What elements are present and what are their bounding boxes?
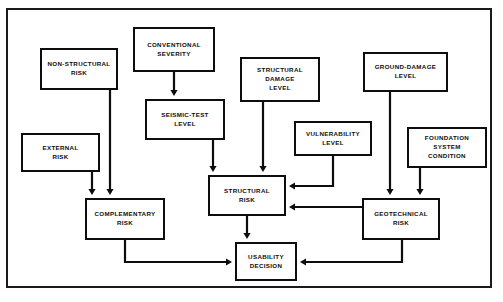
node-complementary-risk[interactable]: COMPLEMENTARY RISK bbox=[85, 198, 165, 240]
node-foundation-system-condition[interactable]: FOUNDATION SYSTEM CONDITION bbox=[407, 127, 487, 168]
node-label-conventional-severity: CONVENTIONAL SEVERITY bbox=[147, 41, 201, 59]
node-label-ground-damage-level: GROUND-DAMAGE LEVEL bbox=[375, 63, 437, 81]
node-label-usability-decision: USABILITY DECISION bbox=[248, 253, 284, 271]
node-label-non-structural-risk: NON-STRUCTURAL RISK bbox=[48, 60, 111, 78]
node-label-foundation-system-condition: FOUNDATION SYSTEM CONDITION bbox=[425, 134, 469, 161]
node-external-risk[interactable]: EXTERNAL RISK bbox=[21, 133, 100, 172]
node-usability-decision[interactable]: USABILITY DECISION bbox=[235, 242, 297, 281]
node-label-geotechnical-risk: GEOTECHNICAL RISK bbox=[374, 210, 428, 228]
node-label-vulnerability-level: VULNERABILITY LEVEL bbox=[306, 130, 360, 148]
diagram-root: NON-STRUCTURAL RISKCONVENTIONAL SEVERITY… bbox=[0, 0, 503, 302]
node-geotechnical-risk[interactable]: GEOTECHNICAL RISK bbox=[362, 198, 440, 240]
node-label-external-risk: EXTERNAL RISK bbox=[42, 144, 78, 162]
node-structural-risk[interactable]: STRUCTURAL RISK bbox=[208, 175, 286, 216]
node-label-structural-damage-level: STRUCTURAL DAMAGE LEVEL bbox=[257, 66, 303, 93]
node-label-complementary-risk: COMPLEMENTARY RISK bbox=[95, 210, 156, 228]
node-vulnerability-level[interactable]: VULNERABILITY LEVEL bbox=[294, 121, 372, 156]
node-conventional-severity[interactable]: CONVENTIONAL SEVERITY bbox=[133, 27, 215, 72]
node-label-structural-risk: STRUCTURAL RISK bbox=[224, 187, 270, 205]
node-label-seismic-test-level: SEISMIC-TEST LEVEL bbox=[161, 111, 209, 129]
node-non-structural-risk[interactable]: NON-STRUCTURAL RISK bbox=[40, 48, 118, 90]
node-ground-damage-level[interactable]: GROUND-DAMAGE LEVEL bbox=[363, 52, 448, 92]
node-seismic-test-level[interactable]: SEISMIC-TEST LEVEL bbox=[145, 99, 225, 140]
node-structural-damage-level[interactable]: STRUCTURAL DAMAGE LEVEL bbox=[240, 57, 320, 102]
